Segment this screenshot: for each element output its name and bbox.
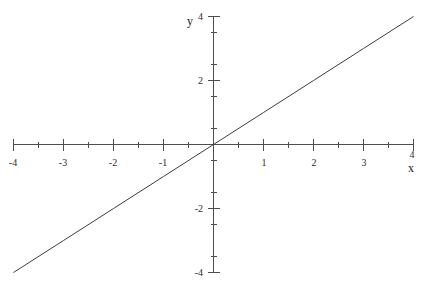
x-tick-label-neg4: -4 [9,157,17,168]
x-axis-label: x [408,161,414,175]
x-tick-label-pos2: 2 [312,157,317,168]
y-axis-label: y [187,14,193,28]
x-tick-label-pos1: 1 [262,157,267,168]
x-tick-label-pos3: 3 [362,157,367,168]
x-tick-label-neg3: -3 [59,157,67,168]
x-tick-label-pos4: 4 [410,149,415,160]
y-tick-label-pos2: 2 [198,75,203,86]
y-tick-label-neg4: -4 [195,267,203,278]
plot-canvas: -4 -3 -2 -1 1 2 3 4 x [0,0,427,281]
y-tick-label-pos4: 4 [198,11,203,22]
x-tick-label-neg2: -2 [109,157,117,168]
y-tick-label-neg2: -2 [195,203,203,214]
x-tick-label-neg1: -1 [159,157,167,168]
cartesian-plot: -4 -3 -2 -1 1 2 3 4 x [0,0,427,281]
